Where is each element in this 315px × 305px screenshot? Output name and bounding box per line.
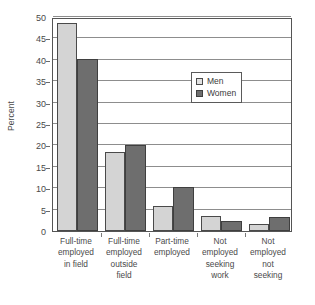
bar-men-group-4: [201, 216, 222, 231]
y-tick-mark-45: [46, 39, 50, 40]
y-tick-label-25: 25: [36, 120, 46, 130]
legend-entry-men: Men: [196, 75, 236, 87]
x-axis-label-line: employed: [238, 247, 298, 258]
y-tick-label-15: 15: [36, 163, 46, 173]
x-axis-label-line: field: [94, 270, 154, 281]
bar-women-group-5: [269, 217, 290, 231]
legend-entry-women: Women: [196, 87, 236, 99]
y-tick-label-40: 40: [36, 56, 46, 66]
bar-women-group-4: [221, 221, 242, 231]
y-axis-title: Percent: [4, 0, 18, 232]
bar-women-group-1: [77, 59, 98, 231]
bar-men-group-1: [57, 23, 78, 231]
x-axis-label-line: outside: [94, 259, 154, 270]
y-tick-label-20: 20: [36, 141, 46, 151]
y-tick-label-35: 35: [36, 77, 46, 87]
y-tick-mark-30: [46, 104, 50, 105]
bar-men-group-3: [153, 206, 174, 231]
gridline-y-50: [53, 16, 291, 17]
legend-swatch-women-icon: [196, 90, 203, 97]
y-tick-mark-35: [46, 82, 50, 83]
y-tick-label-10: 10: [36, 184, 46, 194]
y-tick-label-30: 30: [36, 99, 46, 109]
bar-men-group-2: [105, 152, 126, 231]
y-tick-label-45: 45: [36, 34, 46, 44]
y-tick-mark-15: [46, 168, 50, 169]
y-tick-mark-10: [46, 189, 50, 190]
x-axis-label-group-5: Notemployednotseeking: [238, 236, 298, 282]
y-tick-mark-25: [46, 125, 50, 126]
grouped-bar-chart: Percent 05101520253035404550 Men Women F…: [0, 0, 315, 305]
legend-swatch-men-icon: [196, 78, 203, 85]
x-axis-category-labels: Full-timeemployedin fieldFull-timeemploy…: [52, 236, 292, 304]
y-tick-label-50: 50: [36, 13, 46, 23]
x-axis-label-line: not: [238, 259, 298, 270]
y-tick-mark-5: [46, 211, 50, 212]
gridline-y-45: [53, 37, 291, 38]
legend-label-women: Women: [207, 88, 236, 98]
x-axis-label-line: Not: [238, 236, 298, 247]
y-axis-title-text: Percent: [6, 101, 16, 131]
legend-label-men: Men: [207, 76, 224, 86]
y-tick-mark-20: [46, 146, 50, 147]
x-axis-label-line: seeking: [238, 270, 298, 281]
chart-legend: Men Women: [191, 72, 242, 103]
bar-women-group-3: [173, 187, 194, 231]
bar-men-group-5: [249, 224, 270, 231]
y-tick-mark-40: [46, 61, 50, 62]
bar-women-group-2: [125, 145, 146, 231]
plot-area: [52, 18, 292, 232]
